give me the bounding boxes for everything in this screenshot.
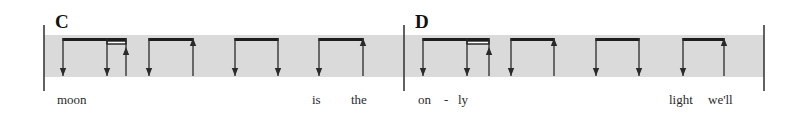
sixteenth-beam <box>467 41 489 44</box>
eighth-beam <box>682 38 724 41</box>
lyrics-line: moonistheon-lylightwe'll <box>57 92 733 107</box>
lyric-syllable: the <box>351 92 367 107</box>
lyric-syllable: - <box>444 92 448 107</box>
measure-band <box>44 35 404 77</box>
lyric-syllable: we'll <box>708 92 733 107</box>
eighth-beam <box>234 38 278 41</box>
eighth-beam <box>148 38 193 41</box>
section-label: D <box>415 11 429 32</box>
section-label: C <box>55 11 69 32</box>
lyric-syllable: on <box>418 92 432 107</box>
sixteenth-beam <box>107 41 126 44</box>
lyric-syllable: light <box>669 92 693 107</box>
eighth-beam <box>510 38 554 41</box>
eighth-beam <box>318 38 363 41</box>
section-labels: CD <box>55 11 429 32</box>
lyric-syllable: moon <box>57 92 87 107</box>
lyric-syllable: is <box>312 92 321 107</box>
strum-pattern-score: CD moonistheon-lylightwe'll <box>0 0 800 114</box>
eighth-beam <box>595 38 639 41</box>
measure-band <box>404 35 764 77</box>
lyric-syllable: ly <box>458 92 469 107</box>
